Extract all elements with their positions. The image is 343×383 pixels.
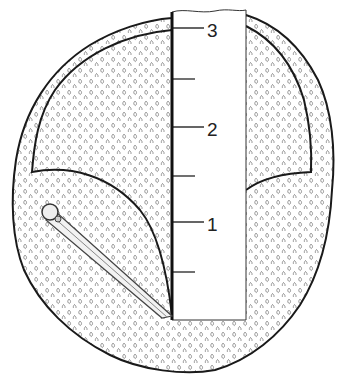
ruler-label-3: 3 <box>207 20 218 41</box>
diagram-canvas: 3 2 1 <box>0 0 343 383</box>
ruler-label-2: 2 <box>207 119 218 140</box>
ruler-label-1: 1 <box>207 214 218 235</box>
measuring-ruler: 3 2 1 <box>172 10 246 320</box>
